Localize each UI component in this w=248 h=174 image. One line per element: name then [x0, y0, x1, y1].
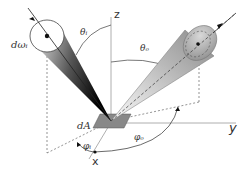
incident-center-dot [45, 34, 49, 38]
x-axis-dot [93, 150, 96, 153]
outgoing-center-dot [196, 42, 200, 46]
brdf-diagram: z y x θᵢ θₒ dωᵢ dA φᵢ φₒ [0, 0, 248, 174]
dA-patch [93, 114, 131, 128]
z-axis-label: z [114, 9, 120, 20]
x-axis-label: x [92, 156, 99, 167]
phi-i-label: φᵢ [83, 142, 91, 151]
dA-label: dA [77, 121, 91, 131]
incident-direction-line [28, 8, 111, 121]
incident-arrow-head [29, 17, 35, 21]
y-axis-label: y [229, 121, 237, 134]
diagram-svg [0, 0, 248, 174]
theta-i-label: θᵢ [80, 28, 87, 37]
theta-o-label: θₒ [140, 44, 149, 53]
d-omega-i-label: dωᵢ [11, 40, 28, 50]
phi-o-label: φₒ [134, 133, 144, 142]
outgoing-direction-tail [213, 13, 236, 33]
outgoing-arrow-head [217, 23, 223, 29]
